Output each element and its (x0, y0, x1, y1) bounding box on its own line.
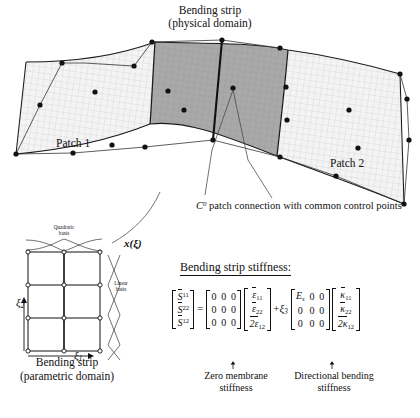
linear-basis-curves (108, 255, 120, 360)
membrane-stiffness-matrix: 000 000 000 (206, 290, 241, 330)
quadratic-basis-line-2: basis (28, 231, 100, 237)
c0-note-text: patch connection with common control poi… (209, 200, 402, 211)
quadratic-basis-label: Quadratic basis (28, 225, 100, 237)
zero-membrane-stiffness-annotation: Zero membrane stiffness (196, 370, 276, 394)
directional-bending-stiffness-annotation: Directional bending stiffness (286, 370, 382, 394)
bending-strip-stiffness-equation: S11 S22 S12 = 000 000 000 ε11 ε22 2ε12 +… (172, 288, 360, 331)
parametric-domain-caption: Bending strip (parametric domain) (0, 356, 134, 383)
bending-stiffness-matrix: Es00 000 000 (291, 289, 330, 330)
figure-title-line-2: (physical domain) (0, 17, 420, 30)
equals-sign: = (197, 302, 203, 314)
linear-basis-line-2: basis (106, 287, 136, 293)
zero-membrane-line-2: stiffness (196, 382, 276, 394)
patch-2-label: Patch 2 (330, 157, 364, 170)
xi3-factor: ξ3 (279, 302, 287, 314)
lhs-symbol-2: S (177, 316, 182, 329)
parametric-caption-line-1: Bending strip (0, 356, 134, 370)
directional-bending-line-2: stiffness (286, 382, 382, 394)
parametric-axes (21, 297, 94, 359)
axis-label-xi2: ξ2 (16, 296, 24, 310)
lhs-symbol-0: S (178, 290, 183, 303)
stress-resultant-vector: S11 S22 S12 (172, 290, 194, 330)
stiffness-arrows (231, 361, 335, 369)
bending-strip-surface (150, 42, 288, 156)
figure-title-line-1: Bending strip (0, 4, 420, 17)
membrane-strain-vector: ε11 ε22 2ε12 (244, 288, 270, 331)
lhs-symbol-1: S (177, 303, 182, 316)
zero-membrane-line-1: Zero membrane (196, 370, 276, 382)
parametric-domain-figure (21, 239, 120, 360)
stiffness-heading-text: Bending strip stiffness: (180, 260, 291, 276)
stiffness-heading: Bending strip stiffness: (180, 261, 291, 274)
c0-symbol: C0 (196, 200, 206, 211)
linear-basis-label: Linear basis (106, 281, 136, 293)
patch-1-label: Patch 1 (56, 137, 90, 150)
curvature-vector: κ11 κ22 2κ12 (332, 288, 359, 331)
directional-bending-line-1: Directional bending (286, 370, 382, 382)
patch-2-surface (277, 50, 404, 204)
parametric-caption-line-2: (parametric domain) (0, 370, 134, 384)
mapping-label: x(ξ) (124, 237, 142, 249)
figure-title: Bending strip (physical domain) (0, 4, 420, 30)
c0-connection-note: C0 patch connection with common control … (196, 199, 346, 212)
quadratic-basis-curves (26, 239, 102, 251)
